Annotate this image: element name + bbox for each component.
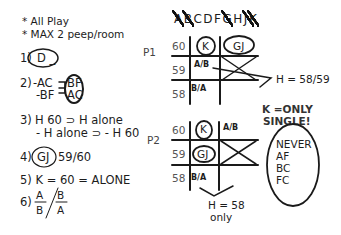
- rule-2-circle: [65, 75, 83, 103]
- rule-1-oval: [28, 49, 58, 67]
- p2-v-mark: [200, 186, 233, 196]
- rule-6-slash: [46, 188, 58, 218]
- p1-gj-circle: [224, 36, 254, 54]
- rule-4-circle: [32, 147, 56, 167]
- sketch-strokes: [0, 0, 341, 235]
- p1-cross: [222, 57, 256, 80]
- p2-gj-circle: [193, 146, 215, 162]
- p2-k-circle: [196, 121, 212, 139]
- p1-k-circle: [197, 37, 215, 55]
- p2-cross: [221, 141, 256, 164]
- never-oval: [267, 124, 319, 206]
